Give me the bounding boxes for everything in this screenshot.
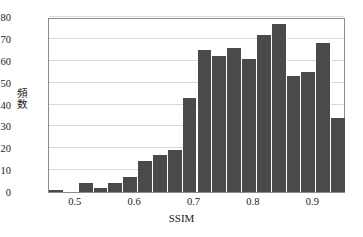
y-axis-tick-label: 0 bbox=[0, 188, 11, 199]
histogram-bar bbox=[227, 48, 242, 192]
histogram-bar bbox=[316, 43, 331, 192]
histogram-bar bbox=[153, 155, 168, 192]
histogram-bar bbox=[242, 59, 257, 192]
histogram-bar bbox=[198, 50, 213, 192]
histogram-bar bbox=[183, 98, 198, 192]
y-axis-tick-label: 30 bbox=[0, 122, 11, 133]
x-axis-tick-label: 0.8 bbox=[233, 197, 273, 208]
histogram-bar bbox=[212, 56, 227, 192]
histogram-bar bbox=[257, 35, 272, 193]
x-axis-tick-label: 0.5 bbox=[55, 197, 95, 208]
y-axis-tick-label: 10 bbox=[0, 166, 11, 177]
histogram-bar bbox=[331, 118, 346, 192]
x-axis-title: SSIM bbox=[0, 212, 363, 224]
histogram-bar bbox=[79, 183, 94, 192]
histogram-bar bbox=[94, 188, 109, 192]
histogram-bar bbox=[168, 150, 183, 192]
y-axis-tick-label: 80 bbox=[0, 13, 11, 24]
y-axis-tick-label: 70 bbox=[0, 35, 11, 46]
grid-line bbox=[49, 16, 344, 17]
plot-area bbox=[48, 18, 345, 193]
y-axis-tick-label: 60 bbox=[0, 57, 11, 68]
histogram-bar bbox=[108, 183, 123, 192]
x-axis-tick-label: 0.9 bbox=[292, 197, 332, 208]
histogram-bar bbox=[49, 190, 64, 192]
y-axis-tick-label: 40 bbox=[0, 101, 11, 112]
histogram-bar bbox=[272, 24, 287, 192]
histogram-bar bbox=[287, 76, 302, 192]
histogram-bar bbox=[138, 161, 153, 192]
y-axis-title: 頻数 bbox=[14, 88, 29, 110]
histogram-bar bbox=[123, 177, 138, 192]
x-axis-tick-label: 0.7 bbox=[174, 197, 214, 208]
histogram-bar bbox=[301, 72, 316, 192]
histogram-bars bbox=[49, 19, 344, 192]
y-axis-tick-label: 20 bbox=[0, 144, 11, 155]
x-axis-tick-label: 0.6 bbox=[114, 197, 154, 208]
chart-page: 頻数 01020304050607080 0.50.60.70.80.9 SSI… bbox=[0, 0, 363, 237]
y-axis-tick-label: 50 bbox=[0, 79, 11, 90]
